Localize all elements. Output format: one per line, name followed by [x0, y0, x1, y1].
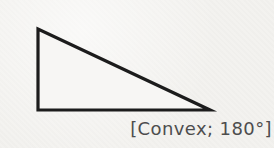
figure-caption: [Convex; 180°] — [130, 118, 272, 140]
triangle-shape — [38, 29, 210, 110]
figure-canvas: [Convex; 180°] — [0, 0, 274, 148]
